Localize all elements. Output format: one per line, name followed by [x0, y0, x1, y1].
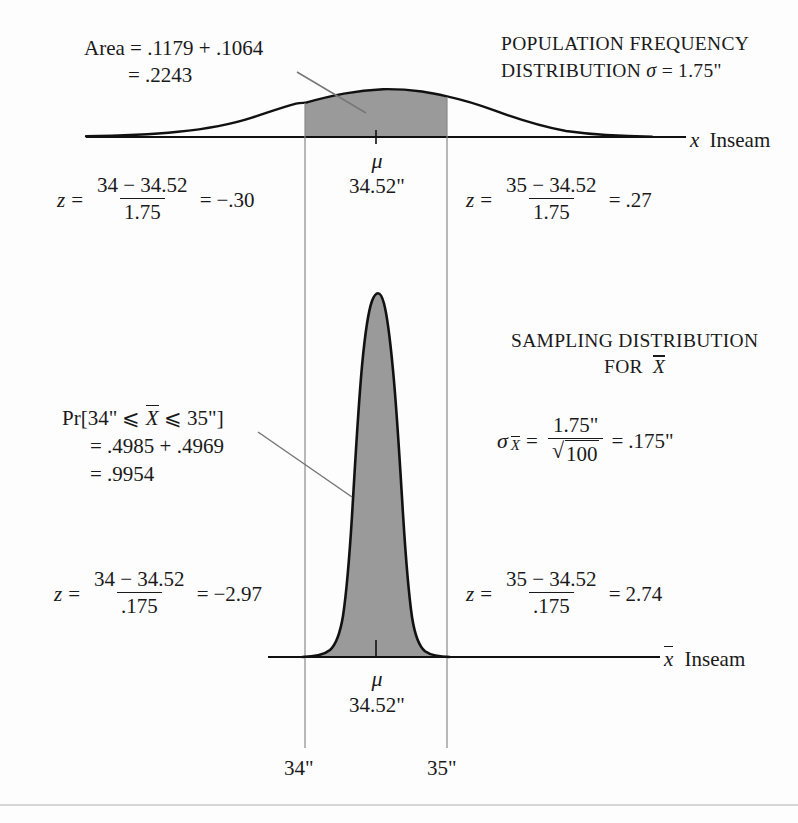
probability-line-1: Pr[34" ⩽ X ⩽ 35"] [62, 406, 224, 430]
z-numerator: 35 − 34.52 [502, 567, 601, 592]
z-numerator: 34 − 34.52 [93, 173, 192, 198]
population-sigma-value: = 1.75" [662, 60, 722, 81]
z-fraction: 34 − 34.52 .175 [90, 567, 189, 618]
statistics-figure: Area = .1179 + .1064 = .2243 POPULATION … [0, 0, 798, 823]
population-title-line-2: DISTRIBUTION σ = 1.75" [501, 59, 749, 82]
bottom-axis-label-text: Inseam [685, 647, 746, 671]
bottom-z-formula-left: z = 34 − 34.52 .175 = −2.97 [54, 568, 262, 619]
top-area-line-2: = .2243 [128, 63, 263, 87]
equals-sign: = [71, 188, 83, 212]
z-fraction: 34 − 34.52 1.75 [93, 173, 192, 224]
bottom-axis-variable: x [664, 647, 673, 671]
top-axis-label: x Inseam [690, 128, 770, 152]
z-denominator: .175 [117, 592, 162, 618]
result-equals-sign: = [197, 582, 209, 606]
tick-label-35: 35" [427, 756, 457, 780]
radicand: 100 [565, 440, 600, 466]
probability-line-1-suffix: ⩽ 35"] [159, 406, 224, 430]
probability-annotation: Pr[34" ⩽ X ⩽ 35"] = .4985 + .4969 = .995… [62, 406, 224, 486]
result-equals-sign: = [609, 188, 621, 212]
z-denominator: 1.75 [120, 198, 165, 224]
bottom-mu-symbol: μ [357, 666, 397, 691]
top-z-formula-right: z = 35 − 34.52 1.75 = .27 [466, 174, 652, 225]
sigma-symbol: σ [497, 428, 508, 453]
equals-sign: = [480, 582, 492, 606]
population-title-distribution-word: DISTRIBUTION [501, 60, 641, 81]
z-result: 2.74 [625, 582, 662, 606]
result-equals-sign: = [609, 582, 621, 606]
result-equals-sign: = [200, 188, 212, 212]
x-bar-symbol: X [653, 356, 665, 378]
sigma-symbol: σ [646, 59, 656, 81]
equals-sign: = [480, 188, 492, 212]
top-mu-symbol: μ [357, 148, 397, 173]
sampling-title-line-2: FOR X [511, 356, 758, 378]
z-variable: z [466, 582, 474, 606]
z-result: −.30 [216, 188, 254, 212]
tick-label-34: 34" [284, 756, 314, 780]
sigma-xbar-formula: σ X = 1.75" √ 100 = .175" [497, 414, 674, 467]
population-title-line-1: POPULATION FREQUENCY [501, 33, 749, 55]
sigma-result: .175" [628, 429, 673, 453]
z-result: .27 [625, 188, 651, 212]
sigma-numerator: 1.75" [549, 413, 602, 438]
z-denominator: .175 [529, 592, 574, 618]
top-mu-glyph: μ [371, 148, 382, 173]
top-z-formula-left: z = 34 − 34.52 1.75 = −.30 [57, 174, 255, 225]
z-fraction: 35 − 34.52 .175 [502, 567, 601, 618]
z-variable: z [54, 582, 62, 606]
top-area-line-1: Area = .1179 + .1064 [84, 36, 263, 60]
radical-icon: √ [552, 440, 565, 462]
probability-line-3: = .9954 [90, 462, 224, 486]
population-distribution-title: POPULATION FREQUENCY DISTRIBUTION σ = 1.… [501, 33, 749, 83]
result-equals-sign: = [611, 429, 623, 453]
bottom-mu-value: 34.52" [335, 693, 419, 717]
top-axis-variable: x [690, 128, 699, 152]
z-variable: z [466, 188, 474, 212]
sampling-distribution-title: SAMPLING DISTRIBUTION FOR X [511, 330, 758, 379]
bottom-z-formula-right: z = 35 − 34.52 .175 = 2.74 [466, 568, 662, 619]
z-variable: z [57, 188, 65, 212]
sigma-fraction: 1.75" √ 100 [548, 413, 604, 466]
sigma-subscript-xbar: X [511, 437, 520, 454]
probability-line-1-prefix: Pr[34" ⩽ [62, 406, 146, 430]
sampling-title-for-word: FOR [604, 356, 643, 377]
sampling-title-line-1: SAMPLING DISTRIBUTION [511, 330, 758, 352]
equals-sign: = [526, 429, 538, 453]
top-area-annotation: Area = .1179 + .1064 = .2243 [84, 36, 263, 87]
bottom-axis-label: x Inseam [664, 647, 745, 671]
z-fraction: 35 − 34.52 1.75 [502, 173, 601, 224]
top-mu-value: 34.52" [335, 174, 419, 198]
equals-sign: = [68, 582, 80, 606]
z-result: −2.97 [213, 582, 262, 606]
probability-line-2: = .4985 + .4969 [90, 434, 224, 458]
top-axis-label-text: Inseam [710, 128, 771, 152]
sigma-denominator: √ 100 [548, 438, 604, 466]
bottom-mu-glyph: μ [371, 666, 382, 691]
z-numerator: 35 − 34.52 [502, 173, 601, 198]
z-numerator: 34 − 34.52 [90, 567, 189, 592]
x-bar-symbol: X [146, 406, 159, 430]
z-denominator: 1.75 [529, 198, 574, 224]
sampling-shaded-area [305, 293, 447, 657]
